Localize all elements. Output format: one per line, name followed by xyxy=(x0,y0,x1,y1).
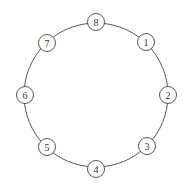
node-label: 8 xyxy=(94,17,99,28)
node-label: 5 xyxy=(45,142,50,153)
node-label: 3 xyxy=(145,141,150,152)
ring-diagram: 12345678 xyxy=(0,0,188,188)
node-8: 8 xyxy=(88,14,105,31)
node-1: 1 xyxy=(138,34,155,51)
node-2: 2 xyxy=(160,87,177,104)
node-6: 6 xyxy=(17,87,34,104)
node-label: 4 xyxy=(94,164,99,175)
node-4: 4 xyxy=(88,161,105,178)
node-label: 2 xyxy=(166,90,171,101)
node-3: 3 xyxy=(139,138,156,155)
node-7: 7 xyxy=(39,35,56,52)
node-5: 5 xyxy=(39,139,56,156)
node-label: 1 xyxy=(144,37,149,48)
node-label: 7 xyxy=(45,38,50,49)
node-label: 6 xyxy=(23,90,28,101)
